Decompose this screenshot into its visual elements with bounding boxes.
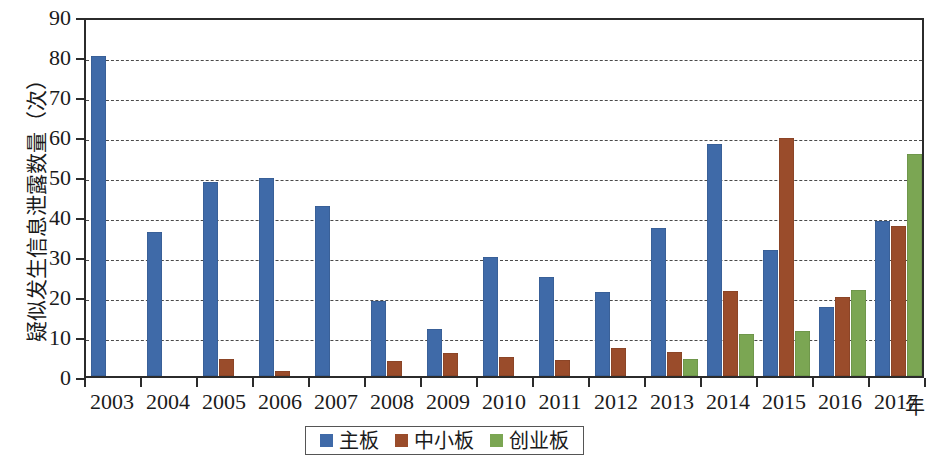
bar-2003-series-0 xyxy=(91,56,106,376)
x-tick-mark xyxy=(364,378,366,387)
legend-swatch-icon xyxy=(490,434,503,447)
legend-item-zhuban: 主板 xyxy=(320,431,379,451)
bar-2014-series-0 xyxy=(707,144,722,376)
y-tick-label: 20 xyxy=(25,287,71,309)
bar-2013-series-0 xyxy=(651,228,666,376)
x-tick-mark xyxy=(532,378,534,387)
bar-2013-series-2 xyxy=(683,359,698,376)
bar-2017-series-2 xyxy=(907,154,922,376)
bar-2016-series-0 xyxy=(819,307,834,376)
bar-2005-series-0 xyxy=(203,182,218,376)
bar-2010-series-0 xyxy=(483,257,498,376)
bar-chart: 疑似发生信息泄露数量（次） 9080706050403020100 200320… xyxy=(0,0,937,456)
x-tick-mark xyxy=(420,378,422,387)
y-tick-label: 90 xyxy=(25,7,71,29)
y-tick-label: 80 xyxy=(25,47,71,69)
bar-2017-series-1 xyxy=(891,226,906,376)
bar-2009-series-1 xyxy=(443,353,458,376)
y-tick-label: 70 xyxy=(25,87,71,109)
bar-2015-series-2 xyxy=(795,331,810,376)
plot-area xyxy=(84,18,924,378)
bar-2015-series-0 xyxy=(763,250,778,376)
y-tick-label: 10 xyxy=(25,327,71,349)
x-tick-mark xyxy=(308,378,310,387)
bar-2011-series-1 xyxy=(555,360,570,376)
y-tick-label: 30 xyxy=(25,247,71,269)
bar-2005-series-1 xyxy=(219,359,234,376)
bar-group xyxy=(870,20,926,376)
x-tick-mark xyxy=(924,378,926,387)
bar-group xyxy=(478,20,534,376)
bar-2013-series-1 xyxy=(667,352,682,376)
bar-2014-series-1 xyxy=(723,291,738,376)
bar-group xyxy=(646,20,702,376)
y-tick-label: 60 xyxy=(25,127,71,149)
legend-item-zhongxiaoban: 中小板 xyxy=(395,431,474,451)
bar-group xyxy=(814,20,870,376)
legend-label: 创业板 xyxy=(509,431,569,451)
legend-swatch-icon xyxy=(320,434,333,447)
y-tick-label: 40 xyxy=(25,207,71,229)
bar-2012-series-0 xyxy=(595,292,610,376)
bar-2011-series-0 xyxy=(539,277,554,376)
x-tick-mark xyxy=(84,378,86,387)
bar-2009-series-0 xyxy=(427,329,442,376)
x-axis-unit-label: 年 xyxy=(905,391,925,420)
x-tick-mark xyxy=(644,378,646,387)
bar-group xyxy=(86,20,142,376)
x-tick-mark xyxy=(756,378,758,387)
x-tick-mark xyxy=(476,378,478,387)
bar-group xyxy=(702,20,758,376)
bar-2015-series-1 xyxy=(779,138,794,376)
bar-group xyxy=(534,20,590,376)
bar-group xyxy=(310,20,366,376)
x-tick-mark xyxy=(252,378,254,387)
legend-item-chuangyeban: 创业板 xyxy=(490,431,569,451)
bar-2017-series-0 xyxy=(875,221,890,376)
bar-group xyxy=(366,20,422,376)
x-tick-mark xyxy=(140,378,142,387)
bar-group xyxy=(142,20,198,376)
y-tick-label: 0 xyxy=(25,367,71,389)
x-tick-mark xyxy=(588,378,590,387)
bar-2008-series-1 xyxy=(387,361,402,376)
x-tick-mark xyxy=(196,378,198,387)
chart-legend: 主板 中小板 创业板 xyxy=(305,426,584,455)
bar-2016-series-2 xyxy=(851,290,866,376)
bar-2007-series-0 xyxy=(315,206,330,376)
bar-2008-series-0 xyxy=(371,301,386,376)
x-tick-mark xyxy=(812,378,814,387)
bar-group xyxy=(422,20,478,376)
bar-2012-series-1 xyxy=(611,348,626,376)
bar-2010-series-1 xyxy=(499,357,514,376)
y-tick-label: 50 xyxy=(25,167,71,189)
bar-2014-series-2 xyxy=(739,334,754,376)
bar-group xyxy=(254,20,310,376)
bar-group xyxy=(198,20,254,376)
bar-2016-series-1 xyxy=(835,297,850,376)
x-tick-mark xyxy=(868,378,870,387)
legend-swatch-icon xyxy=(395,434,408,447)
bar-2004-series-0 xyxy=(147,232,162,376)
legend-label: 中小板 xyxy=(414,431,474,451)
bar-2006-series-1 xyxy=(275,371,290,376)
bar-group xyxy=(590,20,646,376)
x-tick-mark xyxy=(700,378,702,387)
legend-label: 主板 xyxy=(339,431,379,451)
bar-2006-series-0 xyxy=(259,178,274,376)
bar-group xyxy=(758,20,814,376)
